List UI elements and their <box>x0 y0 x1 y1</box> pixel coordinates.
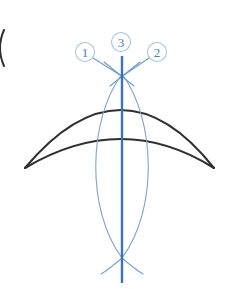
callout-2-label: 2 <box>154 45 161 60</box>
lens-tail-left-arc <box>101 258 122 274</box>
callout-1-label: 1 <box>82 45 89 60</box>
construction-diagram: 1 3 2 <box>0 0 239 289</box>
callout-3[interactable]: 3 <box>112 33 131 52</box>
left-edge-partial-mark <box>0 30 4 66</box>
lens-left-arc <box>96 74 122 258</box>
figure-canvas: 1 3 2 <box>0 0 239 289</box>
inner-crescent-arc <box>25 139 214 168</box>
callout-2-leader <box>124 58 149 75</box>
callout-2[interactable]: 2 <box>124 43 167 76</box>
lens-right-arc <box>122 74 148 258</box>
callout-3-label: 3 <box>118 35 125 50</box>
callout-1-leader <box>93 58 120 75</box>
lens-tail-right-arc <box>122 258 143 274</box>
